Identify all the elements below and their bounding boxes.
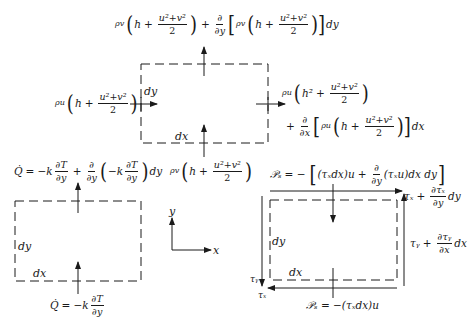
- tau-bottom-label: τₓ: [258, 291, 266, 300]
- tau-right-label: τᵧ+ ∂τᵧ∂x dx: [410, 232, 467, 254]
- top-dx-label: dx: [175, 131, 188, 142]
- flux-left-equation: ρu( h+ u²+v²2): [55, 92, 139, 114]
- flux-bottom-equation: ρv( h+ u²+v²2): [170, 160, 253, 182]
- shear-work-top-equation: 𝒫ₛ= − [(τₓdx)u + ∂∂y (τₓu)dx dy]: [270, 163, 446, 185]
- y-axis-label: y: [169, 206, 175, 217]
- x-axis-label: x: [213, 245, 219, 256]
- top-dy-label: dy: [144, 86, 157, 97]
- flux-right-equation-line1: ρu( h²+ u²+v²2): [282, 82, 370, 104]
- flux-right-equation-line2: + ∂∂x [ρu( h+ u²+v²2)] dx: [283, 115, 424, 137]
- heat-flux-bottom-equation: Q̇= −k ∂T∂y: [50, 294, 106, 316]
- flux-top-equation: ρv( h+ u²+v²2) + ∂∂y [ρv( h+ u²+v²2)] dy: [115, 13, 339, 35]
- heat-dx-label: dx: [33, 268, 46, 279]
- shear-work-bottom-equation: 𝒫ₛ = −(τₓdx)u: [306, 300, 379, 311]
- tau-top-label: τₓ+ ∂τₓ∂y dy: [404, 185, 461, 207]
- shear-dx-label: dx: [289, 267, 302, 278]
- heat-flux-top-equation: Q̇= −k ∂T∂y + ∂∂y (−k ∂T∂y) dy: [14, 160, 162, 182]
- tau-left-label: τᵧ: [250, 275, 258, 284]
- heat-dy-label: dy: [18, 241, 31, 252]
- shear-dy-label: dy: [272, 236, 285, 247]
- diagram-canvas: dy dx ρv( h+ u²+v²2) + ∂∂y [ρv( h+ u²+v²…: [0, 0, 474, 328]
